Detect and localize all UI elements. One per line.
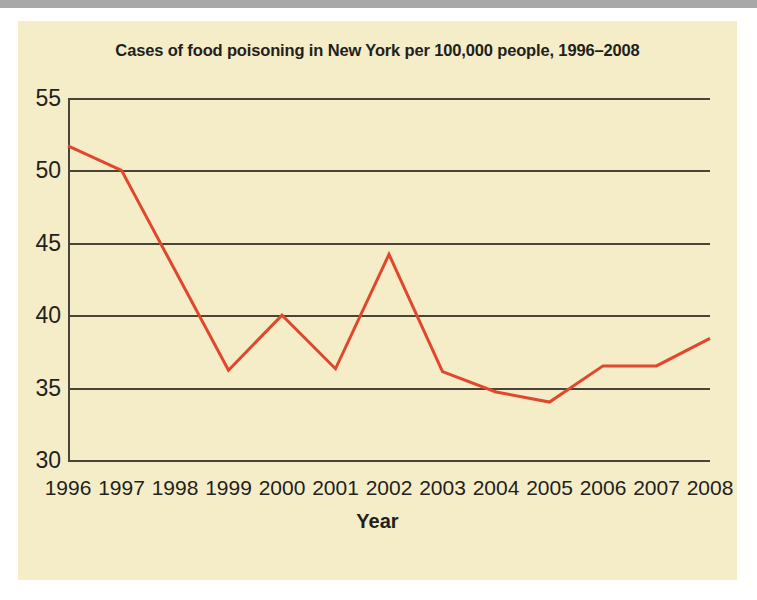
y-tick-label-45: 45 (35, 231, 61, 254)
x-axis-title: Year (18, 510, 737, 533)
x-tick-label-2003: 2003 (419, 477, 466, 498)
x-tick-label-1997: 1997 (98, 477, 145, 498)
chart-title: Cases of food poisoning in New York per … (18, 41, 737, 60)
x-tick-label-2000: 2000 (259, 477, 306, 498)
x-tick-label-2006: 2006 (580, 477, 627, 498)
line-series-food-poisoning (68, 98, 710, 460)
y-tick-label-55: 55 (35, 87, 61, 110)
x-tick-label-2007: 2007 (633, 477, 680, 498)
x-tick-label-1999: 1999 (205, 477, 252, 498)
top-gray-bar (0, 0, 757, 8)
y-tick-label-50: 50 (35, 159, 61, 182)
x-tick-label-2001: 2001 (312, 477, 359, 498)
chart-figure-panel: Cases of food poisoning in New York per … (18, 21, 737, 580)
x-tick-label-1998: 1998 (152, 477, 199, 498)
x-tick-label-2004: 2004 (473, 477, 520, 498)
x-tick-label-1996: 1996 (45, 477, 92, 498)
plot-area: 303540455055 199619971998199920002001200… (68, 98, 710, 460)
y-tick-label-35: 35 (35, 376, 61, 399)
y-tick-label-40: 40 (35, 304, 61, 327)
y-tick-label-30: 30 (35, 449, 61, 472)
x-tick-label-2002: 2002 (366, 477, 413, 498)
x-tick-label-2008: 2008 (687, 477, 734, 498)
gridline-30 (68, 460, 710, 462)
x-tick-label-2005: 2005 (526, 477, 573, 498)
